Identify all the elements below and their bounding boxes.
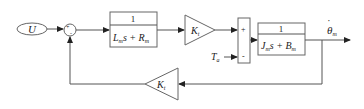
gain-forward-triangle xyxy=(185,15,215,45)
summing-junction-2: + - xyxy=(238,18,250,63)
sum2-minus: - xyxy=(242,52,245,61)
gain-forward-kt: Kt xyxy=(185,15,215,45)
sum2-plus: + xyxy=(241,25,246,34)
tf-mechanical-block: 1 Jms + Bm xyxy=(258,23,305,55)
output-dot: ˙ xyxy=(327,17,331,29)
disturbance-label: Ta xyxy=(211,51,220,63)
tf1-numerator: 1 xyxy=(131,14,136,24)
tf-electrical-block: 1 Lms + Rm xyxy=(110,12,157,47)
block-diagram: U + - 1 Lms + Rm Kt + - Ta 1 Jms + Bm xyxy=(0,0,364,109)
input-u: U xyxy=(17,23,47,35)
tf1-denominator: Lms + Rm xyxy=(112,32,150,44)
summing-junction-1: + - xyxy=(64,24,76,36)
output-label: θm ˙ xyxy=(327,17,337,37)
gain-feedback-kt: Kt xyxy=(145,68,178,100)
input-label: U xyxy=(28,23,37,35)
sum1-minus: - xyxy=(70,30,72,36)
tf2-numerator: 1 xyxy=(279,24,284,34)
